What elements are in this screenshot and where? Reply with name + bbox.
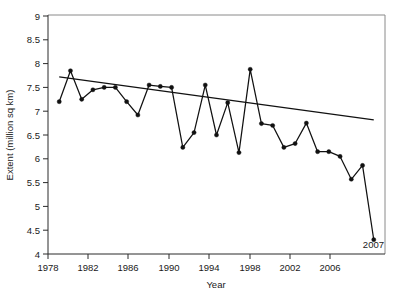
x-tick-label-1982: 1982 [77, 262, 98, 273]
linear-trend-line [59, 77, 374, 120]
x-axis: 1978 1982 1986 1990 1994 1998 2002 2006 … [37, 254, 385, 290]
y-tick-label-4: 4 [35, 249, 40, 260]
line-chart-svg: 9 8.5 8 7.5 7 6.5 6 5.5 5 4.5 4 Extent (… [0, 0, 414, 293]
y-tick-label-5-5: 5.5 [27, 177, 40, 188]
annotation-group: 2007 [363, 239, 384, 250]
y-tick-label-8: 8 [35, 58, 40, 69]
y-tick-label-4-5: 4.5 [27, 225, 40, 236]
data-point [360, 163, 364, 167]
y-axis-title: Extent (million sq km) [4, 90, 15, 181]
data-point [349, 177, 353, 181]
data-point [214, 133, 218, 137]
data-point [192, 131, 196, 135]
data-point [169, 85, 173, 89]
data-point [181, 145, 185, 149]
data-point [158, 84, 162, 88]
data-point [226, 101, 230, 105]
x-tick-label-2002: 2002 [279, 262, 300, 273]
data-point [271, 123, 275, 127]
y-tick-label-8-5: 8.5 [27, 34, 40, 45]
y-tick-label-6: 6 [35, 153, 40, 164]
data-point [248, 67, 252, 71]
x-tick-label-1994: 1994 [198, 262, 219, 273]
data-point [57, 100, 61, 104]
data-point [293, 141, 297, 145]
chart-figure: 9 8.5 8 7.5 7 6.5 6 5.5 5 4.5 4 Extent (… [0, 0, 414, 293]
y-tick-label-7: 7 [35, 106, 40, 117]
data-point [304, 121, 308, 125]
data-point [237, 151, 241, 155]
data-point [113, 85, 117, 89]
data-point [80, 97, 84, 101]
sea-ice-extent-markers [57, 67, 376, 242]
y-tick-label-7-5: 7.5 [27, 82, 40, 93]
data-point [102, 85, 106, 89]
data-point [91, 88, 95, 92]
x-tick-label-2006: 2006 [319, 262, 340, 273]
x-tick-label-1986: 1986 [117, 262, 138, 273]
y-tick-label-6-5: 6.5 [27, 130, 40, 141]
x-axis-title: Year [206, 279, 225, 290]
data-point [316, 150, 320, 154]
data-point [338, 154, 342, 158]
sea-ice-extent-line [59, 69, 374, 239]
data-series-group [57, 67, 376, 242]
x-tick-label-1990: 1990 [158, 262, 179, 273]
y-axis: 9 8.5 8 7.5 7 6.5 6 5.5 5 4.5 4 Extent (… [4, 11, 48, 260]
data-point [259, 121, 263, 125]
x-tick-label-1998: 1998 [239, 262, 260, 273]
data-point [203, 83, 207, 87]
data-point [147, 83, 151, 87]
y-tick-label-9: 9 [35, 11, 40, 22]
annotation-label-2007: 2007 [363, 239, 384, 250]
data-point [68, 69, 72, 73]
data-point [136, 113, 140, 117]
data-point [327, 150, 331, 154]
trend-line-group [59, 77, 374, 120]
data-point [282, 145, 286, 149]
data-point [125, 100, 129, 104]
y-tick-label-5: 5 [35, 201, 40, 212]
x-tick-label-1978: 1978 [37, 262, 58, 273]
